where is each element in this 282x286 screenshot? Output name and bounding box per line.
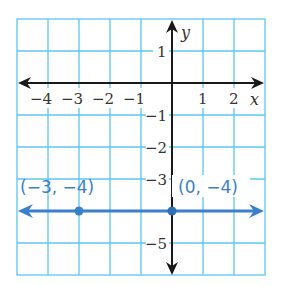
- y-tick-label: −1: [145, 107, 167, 125]
- x-tick-label: −1: [123, 90, 145, 108]
- y-axis-label: y: [180, 23, 191, 42]
- x-tick-label: 1: [198, 90, 208, 108]
- point-label-a: (−3, −4): [20, 177, 94, 197]
- x-axis-label: x: [250, 90, 259, 109]
- point-label-b: (0, −4): [178, 177, 238, 197]
- y-tick-label: −5: [145, 235, 167, 253]
- grid: [17, 19, 265, 275]
- y-tick-label: −3: [145, 171, 167, 189]
- x-tick-label: −4: [30, 90, 52, 108]
- point-a: [75, 207, 84, 216]
- x-tick-label: −2: [92, 90, 114, 108]
- coordinate-plane: −4 −3 −2 −1 1 2 x 1 −1 −2 −3 −5 y (−3, −…: [0, 0, 282, 286]
- x-tick-label: 2: [229, 90, 239, 108]
- point-b: [168, 207, 177, 216]
- y-tick-label: 1: [157, 43, 167, 61]
- y-tick-label: −2: [145, 139, 167, 157]
- x-tick-label: −3: [61, 90, 83, 108]
